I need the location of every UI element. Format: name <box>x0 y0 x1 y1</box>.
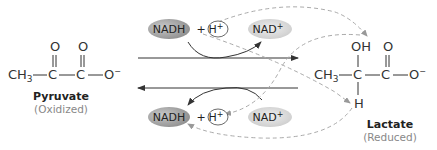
lactate-oh: OH <box>351 39 371 54</box>
svg-text:NADH: NADH <box>153 23 186 36</box>
lactate-c2: C <box>381 67 390 82</box>
top-curved-arrow <box>188 42 261 58</box>
lactate-state: (Reduced) <box>363 131 417 143</box>
bottom-nadh-pill: NADH <box>148 107 190 127</box>
lactate-c1: C <box>353 67 362 82</box>
svg-text:NADH: NADH <box>153 111 186 124</box>
top-plus: + <box>196 23 205 36</box>
pyruvate-c1: C <box>48 67 57 82</box>
bottom-curved-arrow <box>188 88 262 106</box>
dashed-arrow-nadh-to-oh <box>218 7 367 36</box>
pyruvate-label: Pyruvate <box>33 90 89 103</box>
pyruvate-ch3: CH3 <box>8 67 33 84</box>
pyruvate-o-minus: O− <box>104 67 121 82</box>
lactate-label: Lactate <box>367 118 413 131</box>
bottom-plus: + <box>196 111 205 124</box>
top-nadh-pill: NADH <box>148 19 190 39</box>
pyruvate-o2: O <box>78 39 88 54</box>
pyruvate-structure: CH3 C C O− O O Pyruvate (Oxidized) <box>8 39 121 115</box>
top-h-plus: H+ <box>208 21 228 37</box>
lactate-o-minus: O− <box>409 67 426 82</box>
lactate-ch3: CH3 <box>314 67 339 84</box>
top-nad-plus-pill: NAD+ <box>248 19 292 39</box>
lactate-o2: O <box>383 39 393 54</box>
bottom-h-plus: H+ <box>208 109 228 125</box>
bottom-nad-plus-pill: NAD+ <box>248 107 292 127</box>
lactate-h: H <box>354 96 364 111</box>
pyruvate-state: (Oxidized) <box>34 103 88 115</box>
lactate-structure: CH3 C C O− OH O H Lactate (Reduced) <box>314 39 426 143</box>
dashed-arrow-oh-to-hplus <box>225 34 360 114</box>
pyruvate-o1: O <box>50 39 60 54</box>
pyruvate-c2: C <box>76 67 85 82</box>
pyruvate-lactate-diagram: CH3 C C O− O O Pyruvate (Oxidized) CH3 C… <box>0 0 437 150</box>
